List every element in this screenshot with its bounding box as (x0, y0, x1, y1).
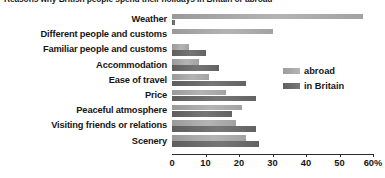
legend-label-abroad: abroad (304, 66, 335, 76)
bar-group (172, 119, 382, 133)
x-axis-tick-label: 40 (301, 158, 311, 168)
page-title: Reasons why British people spend their h… (4, 0, 334, 4)
category-label: Different people and customs (41, 27, 168, 42)
category-label: Peaceful atmosphere (76, 103, 167, 118)
x-axis-tick (340, 154, 341, 157)
x-axis-tick-label: 0 (169, 158, 174, 168)
bar-in-britain (172, 81, 246, 87)
category-label: Ease of travel (109, 73, 167, 88)
category-label: Scenery (132, 134, 167, 149)
x-axis-tick-label: 10 (200, 158, 210, 168)
chart-row: Scenery (0, 134, 385, 149)
x-axis-tick (239, 154, 240, 157)
legend-item-in-britain: in Britain (283, 79, 344, 92)
bar-abroad (172, 29, 273, 35)
bar-group (172, 89, 382, 103)
bar-in-britain (172, 126, 256, 132)
chart-row: Different people and customs (0, 27, 385, 42)
bar-group (172, 13, 382, 27)
bar-group (172, 28, 382, 42)
x-axis-tick (373, 154, 374, 157)
chart-row: Weather (0, 12, 385, 27)
bar-abroad (172, 74, 209, 80)
category-label: Accommodation (96, 58, 167, 73)
chart-legend: abroad in Britain (283, 64, 344, 94)
bar-in-britain (172, 96, 256, 102)
bar-in-britain (172, 65, 219, 71)
bar-abroad (172, 135, 246, 141)
category-label: Weather (132, 12, 167, 27)
bar-abroad (172, 90, 226, 96)
x-axis-tick (206, 154, 207, 157)
bar-abroad (172, 120, 236, 126)
bar-chart: Reasons why British people spend their h… (0, 0, 385, 178)
chart-row: Visiting friends or relations (0, 118, 385, 133)
bar-abroad (172, 14, 363, 20)
x-axis-tick-label: 30 (267, 158, 277, 168)
x-axis-tick-label: 50 (334, 158, 344, 168)
bar-group (172, 59, 382, 73)
legend-swatch-in-britain (283, 83, 300, 89)
bar-abroad (172, 105, 242, 111)
x-axis-tick (273, 154, 274, 157)
bar-in-britain (172, 141, 259, 147)
category-label: Price (145, 88, 167, 103)
x-axis-tick-label: 20 (234, 158, 244, 168)
bar-group (172, 74, 382, 88)
legend-swatch-abroad (283, 68, 300, 74)
bar-group (172, 135, 382, 149)
legend-item-abroad: abroad (283, 64, 344, 77)
category-label: Visiting friends or relations (51, 118, 167, 133)
bar-in-britain (172, 20, 175, 26)
bar-in-britain (172, 50, 206, 56)
bar-group (172, 43, 382, 57)
x-axis-tick (306, 154, 307, 157)
bar-group (172, 104, 382, 118)
category-label: Familiar people and customs (43, 42, 167, 57)
chart-row: Peaceful atmosphere (0, 103, 385, 118)
x-axis-tick-label: 60% (364, 158, 383, 168)
chart-row: Familiar people and customs (0, 42, 385, 57)
bar-in-britain (172, 111, 232, 117)
legend-label-in-britain: in Britain (304, 81, 344, 91)
bar-abroad (172, 59, 199, 65)
bar-abroad (172, 44, 189, 50)
